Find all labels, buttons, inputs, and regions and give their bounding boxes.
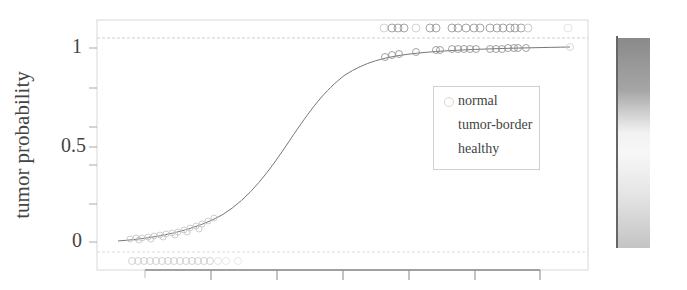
high-predicted-points [382, 44, 574, 61]
y-axis-label: tumor probability [10, 71, 35, 219]
chart-canvas [0, 0, 687, 290]
legend-marker-normal-icon [444, 97, 454, 107]
y-tick-label-0: 0 [42, 229, 82, 252]
y-axis-ticks [89, 48, 97, 242]
y-tick-label-0-5: 0.5 [46, 134, 86, 157]
colorbar-axis [616, 36, 618, 248]
legend-item-tumor-border: tumor-border [458, 117, 532, 133]
y-tick-label-1: 1 [42, 35, 82, 58]
bottom-rug-points [129, 258, 242, 265]
colorbar [617, 38, 650, 248]
x-axis [145, 270, 540, 280]
legend-item-normal: normal [458, 93, 498, 109]
legend: normal tumor-border healthy [433, 86, 540, 170]
top-rug-points [380, 24, 572, 32]
legend-item-healthy: healthy [458, 141, 499, 157]
